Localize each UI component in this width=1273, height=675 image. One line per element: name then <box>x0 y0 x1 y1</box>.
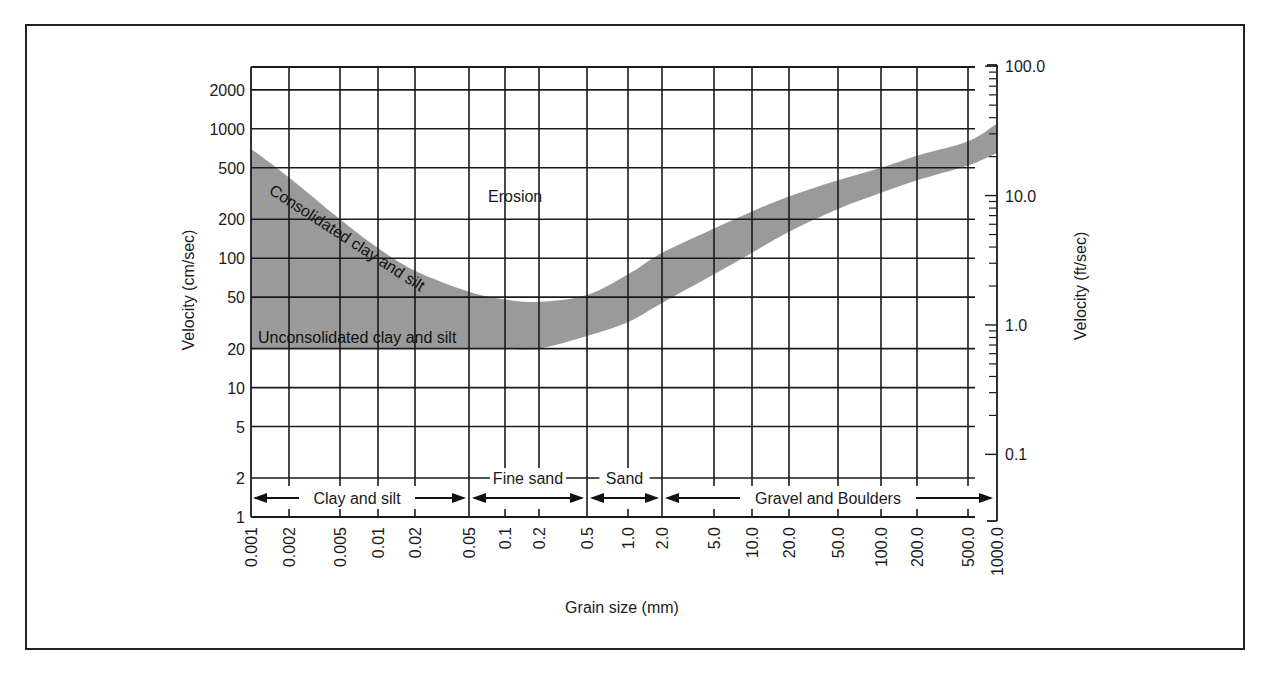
hjulstrom-chart: 0.0010.0020.0050.010.020.050.10.20.51.02… <box>0 0 1273 675</box>
x-tick-label: 1.0 <box>620 527 637 549</box>
x-tick-label: 10.0 <box>744 527 761 558</box>
size-class-gravel-and-boulders: Gravel and Boulders <box>667 490 991 507</box>
x-tick-label: 0.02 <box>407 527 424 558</box>
y-tick-label-right: 0.1 <box>1005 446 1027 463</box>
size-class-label: Sand <box>606 470 643 487</box>
x-axis-title: Grain size (mm) <box>565 599 679 616</box>
x-tick-label: 50.0 <box>830 527 847 558</box>
y-tick-label: 20 <box>227 341 245 358</box>
x-tick-label: 200.0 <box>909 527 926 567</box>
y-tick-label: 1 <box>236 509 245 526</box>
y-tick-label: 200 <box>218 211 245 228</box>
y-axis-title-left: Velocity (cm/sec) <box>180 230 197 351</box>
size-class-label: Clay and silt <box>313 490 401 507</box>
y-tick-labels-left: 12510205010020050010002000 <box>209 82 245 526</box>
band-area <box>251 123 997 349</box>
x-tick-label: 500.0 <box>960 527 977 567</box>
x-tick-labels: 0.0010.0020.0050.010.020.050.10.20.51.02… <box>243 527 1006 576</box>
x-tick-label: 0.5 <box>579 527 596 549</box>
unconsolidated-label: Unconsolidated clay and silt <box>258 329 457 346</box>
y-tick-labels-right: 0.11.010.0100.0 <box>1005 58 1045 463</box>
x-tick-label: 0.002 <box>281 527 298 567</box>
size-class-label: Fine sand <box>493 470 563 487</box>
y-tick-label: 500 <box>218 160 245 177</box>
erosion-band <box>251 123 997 349</box>
size-class-label: Gravel and Boulders <box>755 490 901 507</box>
y-tick-label: 1000 <box>209 121 245 138</box>
x-tick-label: 100.0 <box>873 527 890 567</box>
size-class-sand: Sand <box>592 468 657 498</box>
x-tick-label: 0.005 <box>332 527 349 567</box>
x-tick-label: 0.05 <box>461 527 478 558</box>
y-axis-title-right: Velocity (ft/sec) <box>1072 232 1089 340</box>
y-tick-label: 2000 <box>209 82 245 99</box>
x-tick-label: 0.1 <box>497 527 514 549</box>
size-class-fine-sand: Fine sand <box>474 468 582 498</box>
x-tick-label: 5.0 <box>706 527 723 549</box>
y-tick-label-right: 10.0 <box>1005 188 1036 205</box>
y-tick-label: 100 <box>218 250 245 267</box>
x-tick-label: 0.2 <box>531 527 548 549</box>
y-tick-label: 2 <box>236 470 245 487</box>
x-tick-label: 2.0 <box>654 527 671 549</box>
x-tick-label: 0.001 <box>243 527 260 567</box>
x-tick-label: 0.01 <box>370 527 387 558</box>
y-tick-label: 5 <box>236 419 245 436</box>
size-class-clay-and-silt: Clay and silt <box>255 490 464 507</box>
x-tick-label: 1000.0 <box>989 527 1006 576</box>
x-tick-label: 20.0 <box>781 527 798 558</box>
erosion-label: Erosion <box>488 188 542 205</box>
y-tick-label-right: 1.0 <box>1005 317 1027 334</box>
y-tick-label: 50 <box>227 289 245 306</box>
y-tick-label: 10 <box>227 380 245 397</box>
y-tick-label-right: 100.0 <box>1005 58 1045 75</box>
